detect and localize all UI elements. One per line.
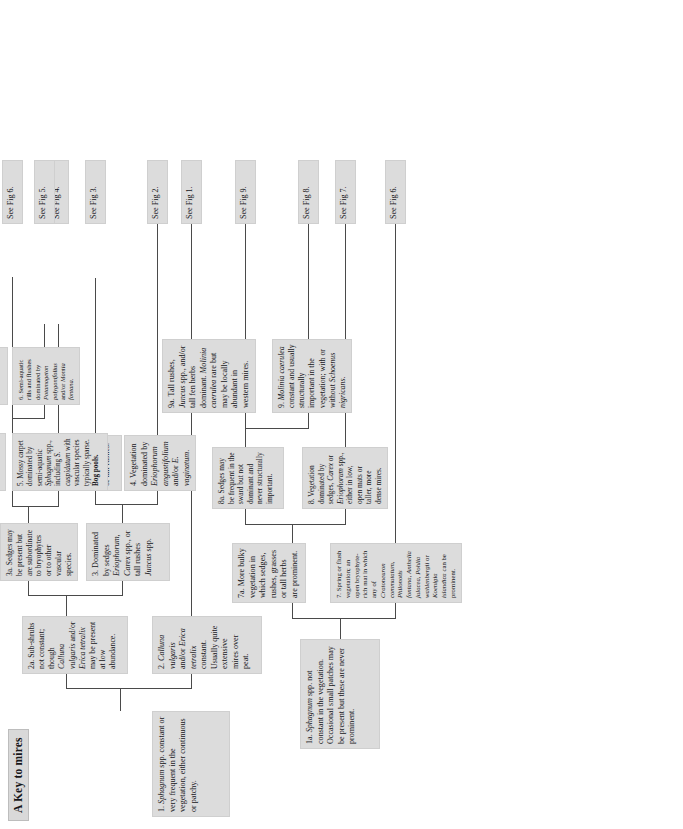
- connector: [308, 413, 309, 429]
- fig-ref-see-fig-8[interactable]: See Fig 8.: [298, 160, 319, 224]
- connector: [95, 278, 96, 435]
- node-9a[interactable]: 9a. Tall rushes, Juncus spp., and/or tal…: [162, 339, 256, 413]
- node-1[interactable]: 1. Sphagnum spp. constant or very freque…: [152, 711, 230, 817]
- connector: [44, 405, 45, 419]
- connector: [157, 489, 158, 505]
- connector: [245, 413, 246, 429]
- connector: [245, 224, 246, 339]
- connector: [157, 224, 158, 435]
- connector: [245, 429, 246, 447]
- node-3[interactable]: 3. Dominated by sedges Eriophorum, Carex…: [86, 523, 170, 581]
- connector: [245, 428, 308, 429]
- connector: [12, 405, 13, 419]
- connector: [120, 689, 121, 711]
- connector: [122, 505, 123, 523]
- key-to-mires-page: A Key to mires: [0, 0, 683, 829]
- connector: [292, 618, 395, 619]
- connector: [292, 525, 293, 543]
- connector: [12, 418, 44, 419]
- rotated-diagram-canvas: A Key to mires: [0, 0, 683, 829]
- connector: [292, 603, 293, 619]
- connector: [308, 224, 309, 339]
- node-7a[interactable]: 7a. More bulky vegetation in which sedge…: [232, 543, 306, 603]
- connector: [28, 580, 29, 596]
- fig-ref-see-fig-6-b[interactable]: See Fig 6.: [385, 160, 406, 224]
- node-1a[interactable]: 1a. Sphagnum spp. not constant in the ve…: [300, 639, 380, 749]
- connector: [12, 506, 58, 507]
- fig-ref-see-fig-5[interactable]: See Fig 5.: [34, 160, 55, 224]
- connector: [66, 596, 67, 616]
- connector: [12, 491, 13, 507]
- connector: [28, 595, 122, 596]
- connector: [12, 277, 13, 347]
- connector: [395, 603, 396, 619]
- node-4[interactable]: 4. Vegetation dominated by Eriophorum an…: [124, 435, 196, 491]
- fig-ref-see-fig-9[interactable]: See Fig 9.: [235, 160, 256, 224]
- node-8[interactable]: 8. Vegetation dominated by sedges, Carex…: [302, 447, 388, 509]
- fig-ref-see-fig-3[interactable]: See Fig 3.: [85, 160, 106, 224]
- fig-ref-see-fig-2[interactable]: See Fig 2.: [147, 160, 168, 224]
- connector: [191, 673, 192, 689]
- connector: [345, 509, 346, 525]
- connector: [340, 619, 341, 639]
- node-6[interactable]: 6. Semi-aquatic rills and flushes domina…: [12, 347, 80, 405]
- connector: [66, 673, 67, 689]
- connector: [66, 688, 191, 689]
- node-9[interactable]: 9. Molinia caerulea constant and usually…: [272, 339, 352, 413]
- connector: [245, 524, 345, 525]
- node-3a[interactable]: 3a. Sedges may be present but are subord…: [0, 523, 78, 581]
- connector: [122, 580, 123, 596]
- node-8a[interactable]: 8a. Sedges may be frequent in the sward …: [212, 447, 284, 509]
- connector: [44, 324, 45, 347]
- connector: [58, 491, 59, 507]
- connector: [95, 489, 96, 505]
- node-2a[interactable]: 2a. Sub-shrubs not constant; though Call…: [22, 616, 128, 674]
- node-6a[interactable]: 6a. Open bryophyte mats around springs. …: [0, 347, 8, 405]
- node-2[interactable]: 2. Calluna vulgaris and/or Erica tetrali…: [152, 616, 262, 674]
- fig-ref-see-fig-1[interactable]: See Fig 1.: [181, 160, 202, 224]
- connector: [12, 419, 13, 433]
- node-7[interactable]: 7. Spring or flush vegetation; an open b…: [330, 543, 462, 603]
- connector: [28, 507, 29, 523]
- connector: [245, 509, 246, 525]
- fig-ref-see-fig-6-a[interactable]: See Fig 6.: [2, 160, 23, 224]
- connector: [191, 224, 192, 616]
- connector: [395, 224, 396, 543]
- connector: [345, 224, 346, 447]
- node-5[interactable]: 5. Mossy carpet dominated by semi-aquati…: [12, 433, 108, 491]
- page-title: A Key to mires: [8, 729, 29, 821]
- node-5a[interactable]: 5a. Open springs or rills with constant,…: [0, 433, 6, 491]
- fig-ref-see-fig-7[interactable]: See Fig 7.: [335, 160, 356, 224]
- connector: [95, 504, 157, 505]
